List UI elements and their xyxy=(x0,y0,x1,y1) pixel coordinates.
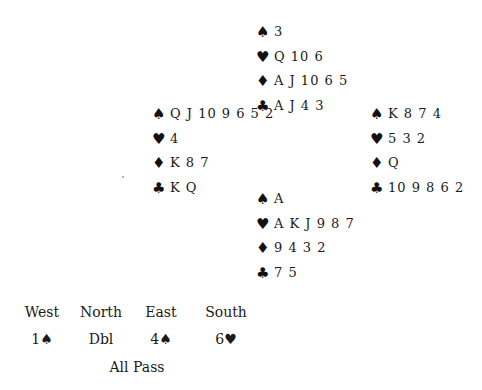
bid-east: 4♠ xyxy=(131,331,191,347)
diamond-icon: ♦ xyxy=(370,151,388,176)
spade-icon: ♠ xyxy=(256,187,274,212)
diamond-icon: ♦ xyxy=(256,236,274,261)
diamond-icon: ♦ xyxy=(256,69,274,94)
auction-header-north: North xyxy=(71,304,131,320)
heart-icon: ♥ xyxy=(256,212,274,237)
west-hearts: 4 xyxy=(170,127,179,152)
club-icon: ♣ xyxy=(152,176,170,201)
north-diamonds: A J 10 6 5 xyxy=(274,69,348,94)
club-icon: ♣ xyxy=(256,261,274,286)
east-hearts: 5 3 2 xyxy=(388,127,426,152)
spade-icon: ♠ xyxy=(256,20,274,45)
heart-icon: ♥ xyxy=(370,127,388,152)
spade-icon: ♠ xyxy=(370,102,388,127)
south-spades: A xyxy=(274,187,284,212)
bid-north: Dbl xyxy=(71,331,131,347)
west-clubs: K Q xyxy=(170,176,198,201)
north-spades: 3 xyxy=(274,20,283,45)
south-clubs: 7 5 xyxy=(274,261,298,286)
bid-south: 6♥ xyxy=(196,331,256,347)
bid-west: 1♠ xyxy=(12,331,72,347)
south-hand: ♠A ♥A K J 9 8 7 ♦9 4 3 2 ♣7 5 xyxy=(256,187,355,285)
west-hand: ♠Q J 10 9 6 5 2 ♥4 ♦K 8 7 ♣K Q xyxy=(152,102,274,200)
heart-icon: ♥ xyxy=(256,45,274,70)
diamond-icon: ♦ xyxy=(152,151,170,176)
west-diamonds: K 8 7 xyxy=(170,151,210,176)
west-spades: Q J 10 9 6 5 2 xyxy=(170,102,274,127)
east-hand: ♠K 8 7 4 ♥5 3 2 ♦Q ♣10 9 8 6 2 xyxy=(370,102,464,200)
south-diamonds: 9 4 3 2 xyxy=(274,236,326,261)
decorative-dot xyxy=(122,176,124,178)
auction-header-west: West xyxy=(12,304,72,320)
north-hearts: Q 10 6 xyxy=(274,45,324,70)
club-icon: ♣ xyxy=(370,176,388,201)
auction-header-east: East xyxy=(131,304,191,320)
spade-icon: ♠ xyxy=(152,102,170,127)
auction-header-south: South xyxy=(196,304,256,320)
east-diamonds: Q xyxy=(388,151,400,176)
south-hearts: A K J 9 8 7 xyxy=(274,212,355,237)
heart-icon: ♥ xyxy=(152,127,170,152)
east-spades: K 8 7 4 xyxy=(388,102,442,127)
north-clubs: A J 4 3 xyxy=(274,94,325,119)
east-clubs: 10 9 8 6 2 xyxy=(388,176,464,201)
auction-final: All Pass xyxy=(97,359,177,375)
